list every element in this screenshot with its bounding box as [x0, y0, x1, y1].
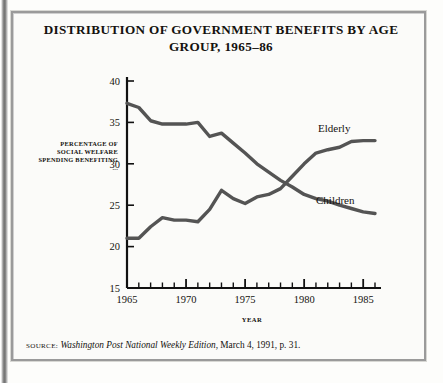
svg-text:1980: 1980 [294, 294, 315, 305]
source-details: , March 4, 1991, p. 31. [216, 340, 301, 350]
svg-text:25: 25 [110, 200, 121, 211]
chart-axes [127, 77, 381, 288]
chart-tick-labels: 15202530354019651970197519801985 [110, 76, 374, 305]
series-label-children: Children [316, 194, 355, 206]
svg-text:1985: 1985 [353, 294, 374, 305]
source-label: SOURCE: [26, 342, 58, 350]
source-line: SOURCE: Washington Post National Weekly … [26, 340, 426, 350]
x-axis-title: YEAR [127, 316, 377, 323]
figure-page: DISTRIBUTION OF GOVERNMENT BENEFITS BY A… [0, 0, 443, 383]
svg-text:1975: 1975 [235, 294, 256, 305]
source-publication: Washington Post National Weekly Edition [60, 340, 215, 350]
line-chart-svg: 15202530354019651970197519801985 [0, 0, 443, 383]
svg-text:40: 40 [110, 76, 121, 87]
svg-text:1965: 1965 [117, 294, 138, 305]
svg-text:1970: 1970 [176, 294, 197, 305]
svg-text:35: 35 [110, 117, 121, 128]
series-label-elderly: Elderly [318, 122, 350, 134]
svg-text:15: 15 [110, 283, 121, 294]
plot-area: 15202530354019651970197519801985 [0, 0, 443, 383]
svg-text:30: 30 [110, 159, 121, 170]
svg-text:20: 20 [110, 241, 121, 252]
